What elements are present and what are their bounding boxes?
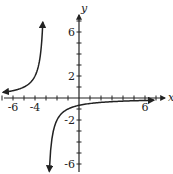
x-tick-label: 6 [142, 101, 149, 114]
x-tick-label: -4 [30, 101, 41, 114]
axes [2, 15, 165, 174]
x-axis-label: x [168, 91, 173, 104]
tick-labels: -6-4662-2-6xy [8, 2, 173, 171]
graph: -6-4662-2-6xy [0, 0, 173, 174]
y-tick-label: 2 [68, 70, 75, 83]
y-tick-label: -2 [64, 114, 75, 127]
left-branch-curve [3, 22, 43, 92]
x-tick-label: -6 [8, 101, 19, 114]
y-axis-label: y [80, 2, 88, 15]
y-tick-label: -6 [64, 158, 75, 171]
y-tick-label: 6 [68, 26, 75, 39]
